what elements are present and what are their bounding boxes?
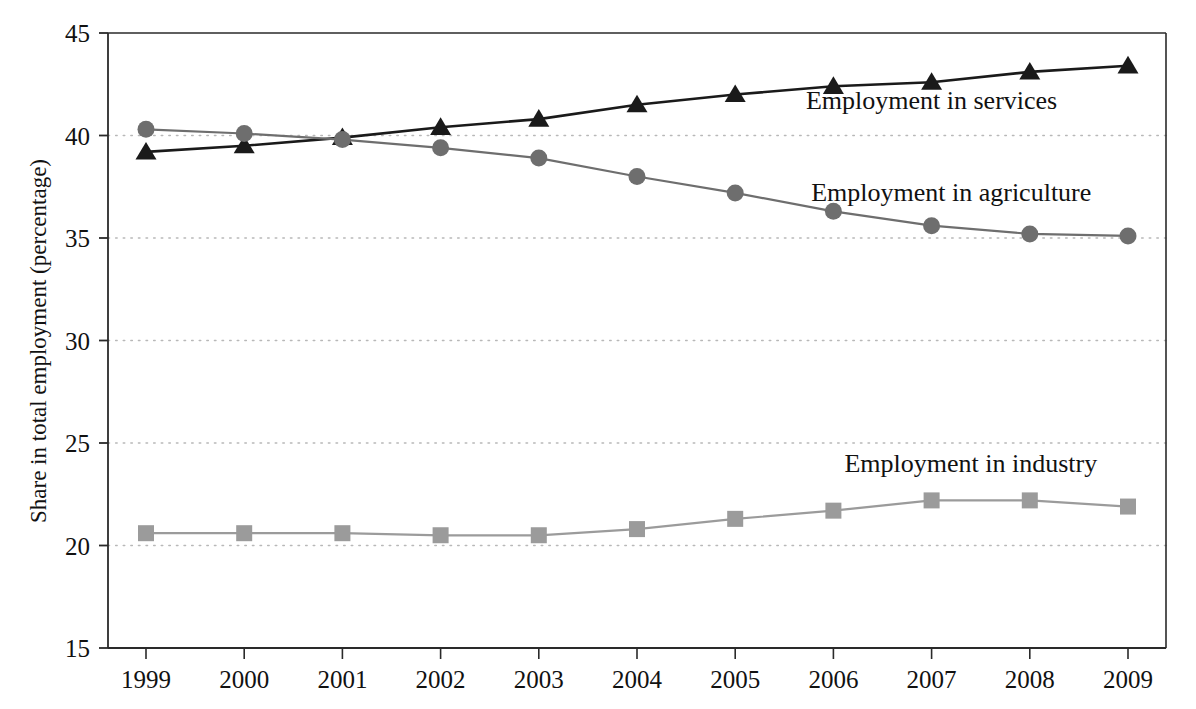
x-tick-label-2008: 2008: [1005, 666, 1055, 693]
data-point-2-2002: [433, 527, 449, 543]
x-tick-label-2005: 2005: [710, 666, 760, 693]
line-chart: 15202530354045 1999200020012002200320042…: [0, 0, 1196, 709]
y-tick-label-40: 40: [65, 123, 90, 150]
data-point-1-2007: [923, 217, 940, 234]
series-annotation-2: Employment in industry: [844, 449, 1097, 478]
x-tick-label-2004: 2004: [612, 666, 663, 693]
y-tick-label-30: 30: [65, 328, 90, 355]
data-point-1-2002: [432, 139, 449, 156]
y-tick-label-45: 45: [65, 20, 90, 47]
data-point-1-2009: [1120, 227, 1137, 244]
data-point-2-2008: [1022, 492, 1038, 508]
y-axis-title: Share in total employment (percentage): [26, 159, 51, 523]
x-tick-label-2006: 2006: [808, 666, 858, 693]
data-point-1-2000: [236, 125, 253, 142]
data-point-1-2001: [334, 131, 351, 148]
x-tick-label-1999: 1999: [121, 666, 171, 693]
data-point-2-2009: [1120, 499, 1136, 515]
data-point-1-2005: [727, 184, 744, 201]
data-point-2-2005: [727, 511, 743, 527]
data-point-2-2003: [531, 527, 547, 543]
data-point-1-2003: [530, 150, 547, 167]
series-annotation-1: Employment in agriculture: [811, 178, 1091, 207]
data-point-2-1999: [138, 525, 154, 541]
x-tick-label-2007: 2007: [907, 666, 957, 693]
data-point-1-2008: [1021, 225, 1038, 242]
x-tick-label-2001: 2001: [317, 666, 367, 693]
data-point-1-1999: [138, 121, 155, 138]
x-tick-label-2003: 2003: [514, 666, 564, 693]
data-point-2-2001: [334, 525, 350, 541]
data-point-2-2004: [629, 521, 645, 537]
y-tick-label-25: 25: [65, 430, 90, 457]
series-annotation-0: Employment in services: [806, 86, 1057, 115]
y-tick-label-35: 35: [65, 225, 90, 252]
data-point-2-2006: [825, 503, 841, 519]
data-point-2-2000: [236, 525, 252, 541]
chart-figure: 15202530354045 1999200020012002200320042…: [0, 0, 1196, 709]
data-point-1-2004: [629, 168, 646, 185]
y-tick-label-20: 20: [65, 533, 90, 560]
data-point-2-2007: [924, 492, 940, 508]
x-tick-label-2002: 2002: [416, 666, 466, 693]
y-tick-label-15: 15: [65, 635, 90, 662]
x-tick-label-2000: 2000: [219, 666, 269, 693]
x-tick-label-2009: 2009: [1103, 666, 1153, 693]
